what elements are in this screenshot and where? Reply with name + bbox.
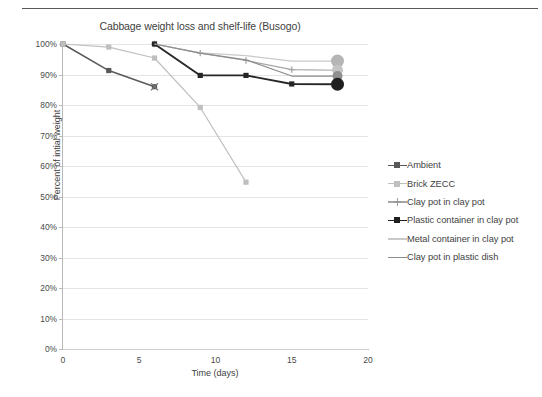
data-point-marker bbox=[198, 73, 203, 78]
legend-item-label: Plastic container in clay pot bbox=[407, 215, 518, 225]
legend-key-icon bbox=[388, 214, 407, 226]
data-point-marker bbox=[106, 44, 111, 49]
data-point-marker bbox=[106, 68, 111, 73]
series-2 bbox=[151, 41, 340, 74]
data-point-marker bbox=[243, 180, 248, 185]
legend-item-label: Ambient bbox=[407, 160, 441, 170]
endpoint-marker bbox=[331, 78, 344, 91]
legend-item-label: Clay pot in clay pot bbox=[407, 197, 485, 207]
legend-item[interactable]: Plastic container in clay pot bbox=[388, 211, 540, 229]
legend-key-icon bbox=[388, 251, 407, 263]
data-point-marker bbox=[198, 105, 203, 110]
legend-item[interactable]: Brick ZECC bbox=[388, 174, 540, 192]
chart-figure: Cabbage weight loss and shelf-life (Buso… bbox=[0, 0, 542, 397]
legend-item[interactable]: Ambient bbox=[388, 156, 540, 174]
chart-legend: AmbientBrick ZECCClay pot in clay potPla… bbox=[388, 156, 540, 266]
data-point-marker bbox=[289, 66, 295, 72]
legend-item[interactable]: Clay pot in clay pot bbox=[388, 193, 540, 211]
data-point-marker bbox=[60, 41, 65, 46]
data-point-marker bbox=[243, 73, 248, 78]
legend-key-icon bbox=[388, 178, 407, 190]
series-1 bbox=[60, 41, 248, 184]
series-3 bbox=[152, 41, 340, 86]
legend-item[interactable]: Metal container in clay pot bbox=[388, 230, 540, 248]
series-line bbox=[63, 44, 155, 87]
legend-item-label: Metal container in clay pot bbox=[407, 234, 514, 244]
legend-key-icon bbox=[388, 196, 407, 208]
data-point-marker bbox=[289, 81, 294, 86]
series-line bbox=[63, 44, 246, 182]
series-line bbox=[155, 44, 338, 70]
legend-item-label: Brick ZECC bbox=[407, 179, 455, 189]
legend-key-icon bbox=[388, 159, 407, 171]
legend-item-label: Clay pot in plastic dish bbox=[407, 252, 498, 262]
legend-item[interactable]: Clay pot in plastic dish bbox=[388, 248, 540, 266]
data-point-marker bbox=[152, 55, 157, 60]
legend-key-icon bbox=[388, 233, 407, 245]
